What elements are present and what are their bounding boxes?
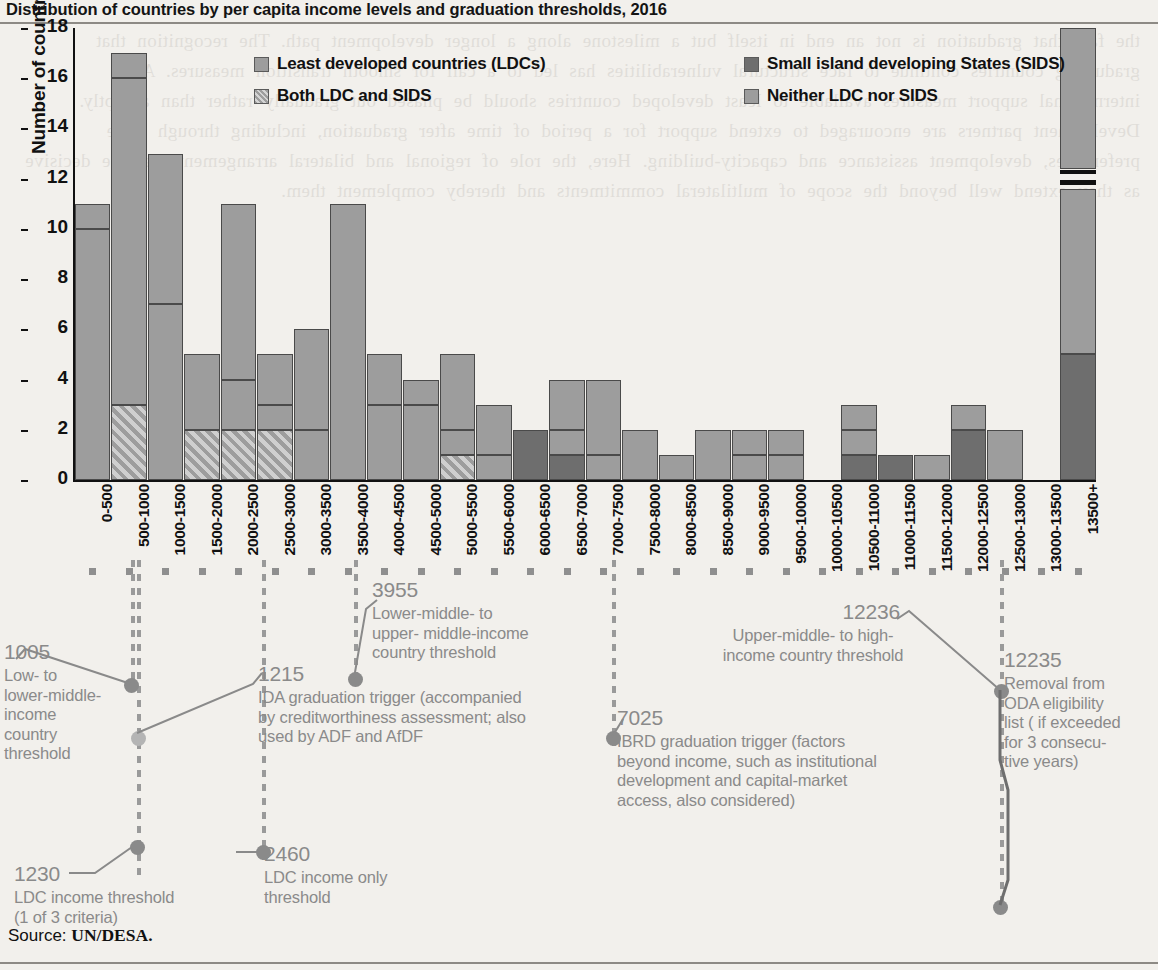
bar-4000-4500[interactable] bbox=[367, 354, 403, 480]
bar-12500-13000[interactable] bbox=[987, 430, 1023, 480]
bar-2000-2500[interactable] bbox=[221, 204, 257, 480]
callout-line: development and capital-market bbox=[617, 771, 947, 791]
callout-line: income country threshold bbox=[663, 646, 963, 666]
x-axis-label-12000-12500: 12000-12500 bbox=[974, 484, 992, 572]
bar-5000-5500[interactable] bbox=[440, 354, 476, 480]
x-axis-label-4500-5000: 4500-5000 bbox=[427, 484, 445, 555]
legend-item-ldc[interactable]: Least developed countries (LDCs) bbox=[254, 54, 546, 74]
callout-knob-2460[interactable] bbox=[256, 845, 271, 860]
bar-segment-sids bbox=[841, 455, 877, 480]
legend-swatch-sids bbox=[744, 57, 759, 72]
category-dot bbox=[89, 568, 96, 575]
x-axis-label-9000-9500: 9000-9500 bbox=[755, 484, 773, 555]
category-dot bbox=[783, 568, 790, 575]
y-axis-tick-0: 0 bbox=[28, 467, 68, 489]
y-axis-tick-18: 18 bbox=[28, 15, 68, 37]
bar-6500-7000[interactable] bbox=[549, 380, 585, 480]
callout-line: access, also considered) bbox=[617, 791, 947, 811]
bar-5500-6000[interactable] bbox=[476, 405, 512, 480]
callout-knob-7025[interactable] bbox=[606, 731, 621, 746]
callout-text-12235: Removal fromODA eligibilitylist ( if exc… bbox=[1004, 674, 1154, 772]
bar-3000-3500[interactable] bbox=[294, 329, 330, 480]
callout-knob-12235-end[interactable] bbox=[993, 900, 1008, 915]
callout-line: by creditworthiness assessment; also bbox=[258, 708, 618, 728]
bar-11000-11500[interactable] bbox=[878, 455, 914, 480]
bar-12000-12500[interactable] bbox=[951, 405, 987, 480]
bar-segment-neither bbox=[75, 204, 111, 229]
bar-segment-ldc bbox=[75, 229, 111, 480]
callout-knob-3955[interactable] bbox=[348, 672, 363, 687]
bar-500-1000[interactable] bbox=[111, 53, 147, 480]
bar-0-500[interactable] bbox=[75, 204, 111, 480]
bar-segment-sids bbox=[513, 430, 549, 480]
bar-segment-sids bbox=[878, 455, 914, 480]
callout-line: country bbox=[4, 725, 134, 745]
bar-9500-10000[interactable] bbox=[768, 430, 804, 480]
callout-knob-12235[interactable] bbox=[994, 684, 1009, 699]
bar-segment-neither bbox=[330, 204, 366, 480]
legend-item-sids[interactable]: Small island developing States (SIDS) bbox=[744, 54, 1065, 74]
x-axis-label-9500-10000: 9500-10000 bbox=[792, 484, 810, 564]
category-dot bbox=[527, 568, 534, 575]
page-title: Distribution of countries by per capita … bbox=[6, 0, 1066, 19]
bar-1500-2000[interactable] bbox=[184, 354, 220, 480]
callout-text-12236: Upper-middle- to high-income country thr… bbox=[663, 626, 963, 665]
source-value: UN/DESA. bbox=[71, 925, 152, 945]
bar-13500+[interactable] bbox=[1060, 28, 1096, 480]
callout-line: Removal from bbox=[1004, 674, 1154, 694]
bar-segment-neither-upper bbox=[1060, 28, 1096, 169]
callout-knob-1215[interactable] bbox=[131, 731, 146, 746]
callout-knob-1005[interactable] bbox=[124, 678, 139, 693]
bar-segment-neither bbox=[403, 380, 439, 405]
bar-7500-8000[interactable] bbox=[622, 430, 658, 480]
callout-line: upper- middle-income bbox=[372, 624, 622, 644]
callout-line: LDC income only bbox=[264, 868, 434, 888]
y-axis-tick-16: 16 bbox=[28, 65, 68, 87]
bar-11500-12000[interactable] bbox=[914, 455, 950, 480]
title-divider bbox=[0, 22, 1158, 24]
x-axis-label-500-1000: 500-1000 bbox=[135, 484, 153, 547]
category-dot bbox=[454, 568, 461, 575]
bar-1000-1500[interactable] bbox=[148, 154, 184, 480]
x-axis-label-10500-11000: 10500-11000 bbox=[865, 484, 883, 571]
bar-segment-both bbox=[184, 430, 220, 480]
callout-line: lower-middle- bbox=[4, 686, 134, 706]
bar-segment-sids bbox=[1060, 354, 1096, 480]
bar-segment-neither bbox=[659, 455, 695, 480]
bar-4500-5000[interactable] bbox=[403, 380, 439, 480]
callout-line: tive years) bbox=[1004, 752, 1154, 772]
x-axis-label-8000-8500: 8000-8500 bbox=[682, 484, 700, 555]
bar-8000-8500[interactable] bbox=[659, 455, 695, 480]
callout-knob-1230[interactable] bbox=[130, 840, 145, 855]
legend-item-neither[interactable]: Neither LDC nor SIDS bbox=[744, 86, 938, 106]
bar-6000-6500[interactable] bbox=[513, 430, 549, 480]
x-axis-label-3500-4000: 3500-4000 bbox=[354, 484, 372, 555]
bar-7000-7500[interactable] bbox=[586, 380, 622, 480]
category-dot bbox=[162, 568, 169, 575]
y-axis-tick-2: 2 bbox=[28, 417, 68, 439]
x-axis-label-1500-2000: 1500-2000 bbox=[208, 484, 226, 555]
bar-8500-9000[interactable] bbox=[695, 430, 731, 480]
bar-segment-ldc bbox=[732, 455, 768, 480]
category-dot bbox=[673, 568, 680, 575]
bar-segment-both bbox=[440, 455, 476, 480]
legend-item-both[interactable]: Both LDC and SIDS bbox=[254, 86, 431, 106]
x-axis-label-11000-11500: 11000-11500 bbox=[901, 484, 919, 570]
threshold-guide-line-4 bbox=[354, 560, 358, 686]
bar-3500-4000[interactable] bbox=[330, 204, 366, 480]
callout-value-1005: 1005 bbox=[4, 640, 50, 663]
bar-10500-11000[interactable] bbox=[841, 405, 877, 480]
category-dot bbox=[1038, 568, 1045, 575]
y-tick-mark bbox=[21, 128, 28, 130]
bar-segment-both bbox=[221, 430, 257, 480]
bar-2500-3000[interactable] bbox=[257, 354, 293, 480]
legend-swatch-both bbox=[254, 89, 269, 104]
callout-line: Upper-middle- to high- bbox=[663, 626, 963, 646]
bar-segment-ldc bbox=[403, 405, 439, 480]
bar-segment-both bbox=[111, 405, 147, 480]
bar-9000-9500[interactable] bbox=[732, 430, 768, 480]
footer-divider bbox=[0, 962, 1158, 964]
bar-segment-ldc bbox=[549, 430, 585, 455]
category-dot bbox=[418, 568, 425, 575]
x-axis-label-0-500: 0-500 bbox=[98, 484, 116, 522]
